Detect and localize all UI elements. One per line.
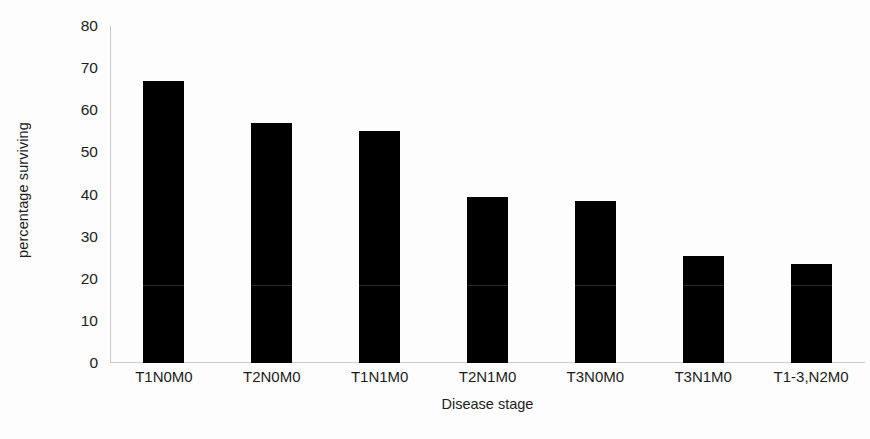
bar[interactable] bbox=[143, 81, 184, 363]
y-axis-tick-label: 20 bbox=[81, 270, 98, 288]
x-axis-tick-label: T1N0M0 bbox=[135, 368, 193, 385]
x-axis-tick-label: T2N0M0 bbox=[243, 368, 301, 385]
scan-artifact-line bbox=[467, 285, 508, 286]
x-axis-tick-label: T3N0M0 bbox=[567, 368, 625, 385]
y-axis-tick-label: 80 bbox=[81, 17, 98, 35]
bar-chart: percentage surviving 01020304050607080 T… bbox=[0, 0, 870, 439]
bar-slot bbox=[434, 26, 542, 363]
x-axis-tick-label: T2N1M0 bbox=[459, 368, 517, 385]
y-axis-tick-label: 30 bbox=[81, 228, 98, 246]
bar-slot bbox=[649, 26, 757, 363]
bar[interactable] bbox=[791, 264, 832, 363]
bar[interactable] bbox=[467, 197, 508, 363]
x-axis-tick-label: T3N1M0 bbox=[674, 368, 732, 385]
y-axis-title-label: percentage surviving bbox=[15, 122, 31, 258]
bar-slot bbox=[326, 26, 434, 363]
bar[interactable] bbox=[251, 123, 292, 363]
scan-artifact-line bbox=[683, 285, 724, 286]
plot-area bbox=[110, 26, 865, 363]
x-axis-tick-label: T1-3,N2M0 bbox=[774, 368, 849, 385]
x-axis-tick-label: T1N1M0 bbox=[351, 368, 409, 385]
scan-artifact-line bbox=[575, 285, 616, 286]
scan-artifact-line bbox=[251, 285, 292, 286]
y-axis-tick-label: 50 bbox=[81, 143, 98, 161]
scan-artifact-line bbox=[791, 285, 832, 286]
bar-slot bbox=[541, 26, 649, 363]
bar[interactable] bbox=[683, 256, 724, 363]
bar[interactable] bbox=[359, 131, 400, 363]
x-axis-tick-labels: T1N0M0T2N0M0T1N1M0T2N1M0T3N0M0T3N1M0T1-3… bbox=[110, 368, 865, 392]
y-axis-tick-label: 70 bbox=[81, 59, 98, 77]
x-axis-title: Disease stage bbox=[110, 396, 865, 412]
y-axis-tick-label: 40 bbox=[81, 186, 98, 204]
bar[interactable] bbox=[575, 201, 616, 363]
y-axis-tick-label: 10 bbox=[81, 312, 98, 330]
y-axis-tick-label: 0 bbox=[89, 354, 98, 372]
y-axis-title: percentage surviving bbox=[0, 0, 46, 380]
bar-slot bbox=[218, 26, 326, 363]
bar-slot bbox=[110, 26, 218, 363]
scan-artifact-line bbox=[359, 285, 400, 286]
y-axis-tick-labels: 01020304050607080 bbox=[52, 0, 106, 439]
bar-slot bbox=[757, 26, 865, 363]
scan-artifact-line bbox=[143, 285, 184, 286]
y-axis-tick-label: 60 bbox=[81, 101, 98, 119]
